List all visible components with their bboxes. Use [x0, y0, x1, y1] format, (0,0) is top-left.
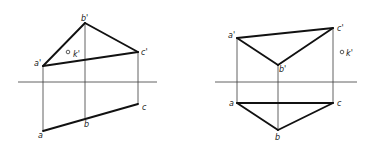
label-k-prime: k': [73, 50, 80, 59]
left-edge-a-b-front: [43, 23, 85, 66]
label-b-prime: b': [279, 65, 286, 74]
label-a-prime: a': [34, 59, 41, 68]
label-b: b: [84, 120, 89, 129]
right-edge-a-c-front: [237, 28, 333, 38]
projection-diagram: a'b'c'k'abca'b'c'k'abc: [0, 0, 368, 148]
right-edge-a-b-top: [237, 103, 278, 130]
label-c-prime: c': [337, 24, 344, 33]
label-b: b: [275, 133, 280, 142]
right-edge-a-b-front: [237, 38, 278, 65]
left-edge-a-c-top: [43, 104, 138, 131]
label-a-prime: a': [228, 31, 235, 40]
left-point-k-marker: [66, 50, 70, 54]
label-a: a: [229, 99, 234, 108]
label-c: c: [142, 103, 147, 112]
left-edge-a-c-front: [43, 52, 138, 66]
right-point-k-marker: [340, 50, 344, 54]
right-edge-b-c-top: [278, 103, 333, 130]
label-k-prime: k': [346, 49, 353, 58]
label-a: a: [38, 131, 43, 140]
label-b-prime: b': [81, 14, 88, 23]
left-edge-b-c-front: [85, 23, 138, 52]
label-c-prime: c': [141, 48, 148, 57]
label-c: c: [337, 99, 342, 108]
